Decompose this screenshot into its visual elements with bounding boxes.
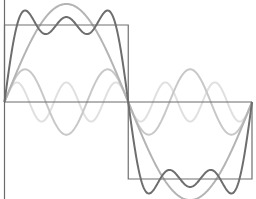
fourier-square-wave-diagram [0,0,256,199]
